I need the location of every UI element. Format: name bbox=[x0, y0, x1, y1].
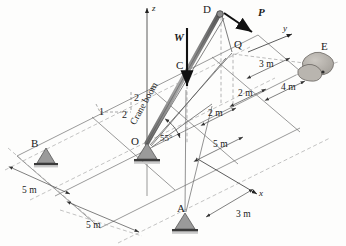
dim-label-3m-right: 3 m bbox=[259, 60, 274, 70]
slope-rise-label: 2 bbox=[134, 93, 139, 103]
anchor-blob-E bbox=[298, 52, 334, 81]
point-label-A: A bbox=[177, 203, 185, 214]
point-label-D: D bbox=[203, 4, 211, 15]
joint-D bbox=[217, 11, 224, 18]
dim-label-4m: 4 m bbox=[281, 83, 296, 93]
cable-D-E bbox=[222, 16, 232, 52]
force-P-arrow bbox=[224, 13, 252, 32]
dim-label-5m-right: 5 m bbox=[213, 140, 228, 150]
support-B bbox=[34, 148, 58, 167]
x-axis-label: x bbox=[259, 189, 263, 198]
point-label-C: C bbox=[176, 60, 183, 71]
crane-boom-diagram bbox=[0, 0, 346, 246]
z-axis-label: z bbox=[152, 4, 156, 13]
dim-line-5m-left-lower bbox=[70, 203, 139, 232]
ground-grid bbox=[17, 35, 300, 228]
slope-run-right-label: 2 bbox=[122, 110, 127, 120]
projection-dashed bbox=[187, 17, 233, 144]
slope-run-left-label: 1 bbox=[99, 107, 104, 117]
dim-label-2m-lower: 2 m bbox=[208, 109, 223, 119]
point-label-B: B bbox=[31, 138, 38, 149]
x-axis bbox=[196, 158, 257, 194]
point-label-O: O bbox=[131, 136, 139, 147]
dim-label-3m-bottom: 3 m bbox=[236, 210, 251, 220]
dim-label-2m-upper: 2 m bbox=[238, 89, 253, 99]
cables bbox=[148, 18, 232, 147]
force-label-W: W bbox=[174, 32, 184, 43]
angle-label-55: 55° bbox=[160, 134, 173, 143]
support-A bbox=[172, 213, 198, 234]
y-axis-label: y bbox=[283, 24, 287, 33]
dim-line-5m-left-upper bbox=[12, 168, 70, 194]
dim-label-5m-left-upper: 5 m bbox=[22, 186, 37, 196]
point-label-Q: Q bbox=[234, 39, 242, 50]
dim-label-5m-left-lower: 5 m bbox=[86, 221, 101, 231]
force-label-P: P bbox=[258, 7, 265, 18]
point-label-E: E bbox=[321, 41, 328, 52]
ground-dashed-lines bbox=[5, 47, 338, 243]
